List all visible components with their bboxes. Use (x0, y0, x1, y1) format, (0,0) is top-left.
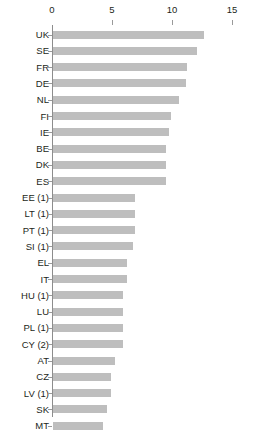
category-label: FR (0, 62, 49, 74)
y-axis-tick-mark (48, 165, 52, 166)
y-axis-tick-mark (48, 100, 52, 101)
category-label: SK (0, 404, 49, 416)
bar-row: MT (0, 418, 255, 434)
y-axis-tick-mark (48, 230, 52, 231)
category-label: DK (0, 159, 49, 171)
x-axis-tick-label: 0 (49, 4, 54, 15)
bar-row: CY (2) (0, 337, 255, 353)
category-label: FI (0, 111, 49, 123)
plot-area: UKSEFRDENLFIIEBEDKESEE (1)LT (1)PT (1)SI… (0, 25, 255, 425)
category-label: SI (1) (0, 241, 49, 253)
category-label: HU (1) (0, 290, 49, 302)
bar (53, 291, 123, 299)
bar-row: PL (1) (0, 320, 255, 336)
bar (53, 79, 186, 87)
bar-row: CZ (0, 369, 255, 385)
bar (53, 422, 103, 430)
bar (53, 242, 133, 250)
bar (53, 194, 135, 202)
bar (53, 128, 169, 136)
y-axis-tick-mark (48, 246, 52, 247)
bar (53, 389, 111, 397)
bar-row: LU (0, 304, 255, 320)
x-axis-tick-label: 15 (227, 4, 238, 15)
bar-row: FR (0, 60, 255, 76)
bar (53, 31, 204, 39)
category-label: LT (1) (0, 208, 49, 220)
y-axis-tick-mark (48, 198, 52, 199)
bar (53, 226, 135, 234)
y-axis-tick-mark (48, 409, 52, 410)
y-axis-tick-mark (48, 132, 52, 133)
bar (53, 357, 115, 365)
bar-row: HU (1) (0, 288, 255, 304)
y-axis-tick-mark (48, 83, 52, 84)
bar-row: EE (1) (0, 190, 255, 206)
y-axis-tick-mark (48, 344, 52, 345)
x-axis: 051015 (0, 0, 255, 26)
y-axis-tick-mark (48, 426, 52, 427)
y-axis-tick-mark (48, 377, 52, 378)
bar (53, 145, 166, 153)
category-label: LU (0, 306, 49, 318)
bar-row: EL (0, 255, 255, 271)
bar-row: IT (0, 272, 255, 288)
bar (53, 308, 123, 316)
category-label: AT (0, 355, 49, 367)
category-label: CY (2) (0, 339, 49, 351)
category-label: SE (0, 45, 49, 57)
bar (53, 275, 127, 283)
x-axis-tick-label: 10 (167, 4, 178, 15)
bar-row: FI (0, 109, 255, 125)
bar-row: SK (0, 402, 255, 418)
category-label: IE (0, 127, 49, 139)
bar (53, 405, 107, 413)
bar-row: LT (1) (0, 206, 255, 222)
bar-row: NL (0, 92, 255, 108)
bar (53, 112, 171, 120)
y-axis-tick-mark (48, 263, 52, 264)
bar (53, 177, 166, 185)
bar (53, 259, 127, 267)
bar (53, 63, 187, 71)
category-label: EE (1) (0, 192, 49, 204)
y-axis-tick-mark (48, 35, 52, 36)
category-label: UK (0, 29, 49, 41)
x-axis-tick-label: 5 (109, 4, 114, 15)
y-axis-tick-mark (48, 312, 52, 313)
category-label: NL (0, 94, 49, 106)
category-label: ES (0, 176, 49, 188)
bar (53, 161, 166, 169)
category-label: IT (0, 274, 49, 286)
category-label: DE (0, 78, 49, 90)
category-label: BE (0, 143, 49, 155)
y-axis-tick-mark (48, 149, 52, 150)
bar-row: PT (1) (0, 223, 255, 239)
y-axis-tick-mark (48, 214, 52, 215)
bar (53, 340, 123, 348)
bar-row: IE (0, 125, 255, 141)
bar-row: BE (0, 141, 255, 157)
bar (53, 47, 197, 55)
category-label: CZ (0, 371, 49, 383)
bar-row: LV (1) (0, 386, 255, 402)
bar (53, 210, 135, 218)
bar-row: AT (0, 353, 255, 369)
y-axis-tick-mark (48, 181, 52, 182)
y-axis-tick-mark (48, 328, 52, 329)
bar-row: SE (0, 43, 255, 59)
bar (53, 96, 179, 104)
bar (53, 373, 111, 381)
y-axis-tick-mark (48, 295, 52, 296)
y-axis-tick-mark (48, 279, 52, 280)
bar (53, 324, 123, 332)
y-axis-tick-mark (48, 116, 52, 117)
bar-row: DE (0, 76, 255, 92)
category-label: LV (1) (0, 388, 49, 400)
bar-row: ES (0, 174, 255, 190)
category-label: EL (0, 257, 49, 269)
category-label: MT (0, 420, 49, 432)
y-axis-tick-mark (48, 361, 52, 362)
bar-row: DK (0, 157, 255, 173)
